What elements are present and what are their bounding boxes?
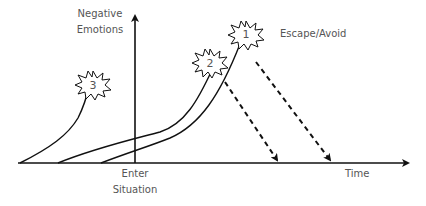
burst-2-label: 2	[204, 56, 216, 72]
escape-arrow-2	[225, 82, 277, 160]
y-axis-label-line1: Negative	[70, 6, 130, 22]
enter-label-line1: Enter	[110, 166, 160, 182]
y-axis-label-line2: Emotions	[70, 22, 130, 38]
burst-3-label: 3	[87, 78, 99, 94]
burst-1-label: 1	[240, 27, 252, 43]
curve-3	[20, 86, 89, 163]
enter-label-line2: Situation	[105, 182, 165, 198]
time-label: Time	[345, 166, 369, 182]
escape-avoid-label: Escape/Avoid	[280, 26, 346, 42]
